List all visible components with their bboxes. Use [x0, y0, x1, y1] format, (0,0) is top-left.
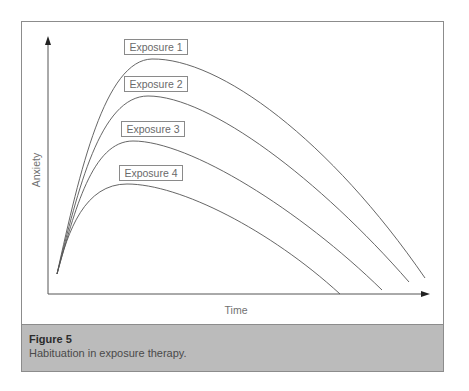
label-exposure-2: Exposure 2 [124, 76, 188, 92]
curve-exposure-3 [57, 141, 382, 290]
figure-caption: Figure 5 Habituation in exposure therapy… [21, 324, 444, 372]
x-axis-label: Time [225, 304, 248, 316]
label-exposure-3: Exposure 3 [121, 121, 185, 137]
caption-text: Habituation in exposure therapy. [29, 346, 443, 360]
curve-exposure-1 [57, 59, 425, 278]
y-axis-label: Anxiety [30, 153, 42, 187]
label-exposure-1: Exposure 1 [124, 39, 188, 55]
x-axis-arrow-icon [421, 291, 430, 297]
y-axis-arrow-icon [45, 36, 51, 45]
label-exposure-4: Exposure 4 [119, 165, 183, 181]
curve-exposure-4 [57, 184, 340, 294]
curve-exposure-2 [57, 96, 409, 282]
figure-number: Figure 5 [29, 332, 443, 346]
